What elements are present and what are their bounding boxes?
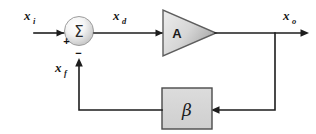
feedback-return-wire [75,58,162,110]
output-label-subscript: o [292,16,296,26]
sigma-symbol: Σ [74,23,83,41]
input-label-subscript: i [33,16,36,26]
label-feedback: x f [54,60,68,78]
output-label-base: x [282,8,290,23]
feedback-label-subscript: f [64,68,68,78]
beta-label: β [181,100,192,120]
feedback-tap-wire [211,33,275,114]
output-wire [215,29,309,37]
plus-sign: + [63,35,69,47]
label-difference: x d [112,8,127,26]
amplifier-label: A [172,26,182,41]
block-diagram-canvas: Σ + − A β [0,0,316,134]
label-output: x o [282,8,296,26]
amplifier-block: A [163,10,216,56]
difference-wire [94,30,163,37]
feedback-label-base: x [54,60,62,75]
difference-label-subscript: d [122,16,127,26]
input-label-base: x [23,8,31,23]
input-wire [34,30,64,37]
minus-sign: − [75,47,81,59]
difference-label-base: x [112,8,120,23]
block-diagram-svg: Σ + − A β [0,0,316,134]
label-input: x i [23,8,36,26]
feedback-block: β [162,88,212,129]
